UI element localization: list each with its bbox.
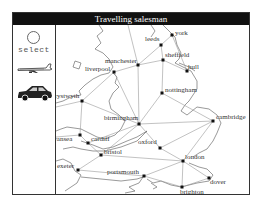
app-window: Travelling salesman select <box>12 12 250 195</box>
svg-text:exeter: exeter <box>57 162 75 170</box>
city-aberystwyth[interactable]: aberystwyth <box>56 92 84 103</box>
svg-text:manchester: manchester <box>105 57 138 65</box>
city-cardiff[interactable]: cardiff <box>87 135 111 145</box>
city-leeds[interactable]: leeds <box>145 35 163 47</box>
svg-text:nottingham: nottingham <box>165 86 197 94</box>
svg-text:sheffield: sheffield <box>165 51 190 59</box>
car-icon <box>16 81 54 103</box>
svg-text:cardiff: cardiff <box>91 135 110 143</box>
city-cambridge[interactable]: cambridge <box>212 113 246 123</box>
circle-select-icon <box>27 31 40 44</box>
city-liverpool[interactable]: liverpool <box>85 65 116 74</box>
svg-text:hull: hull <box>188 63 199 71</box>
window-title: Travelling salesman <box>13 13 249 25</box>
uk-map-canvas[interactable]: york leeds sheffield hull manchester liv… <box>56 25 250 195</box>
svg-text:brighton: brighton <box>180 188 204 195</box>
city-birmingham[interactable]: birmingham <box>104 114 141 126</box>
svg-text:liverpool: liverpool <box>85 65 110 73</box>
select-tool-button[interactable]: select <box>13 29 55 59</box>
airplane-tool-button[interactable] <box>16 61 54 77</box>
city-sheffield[interactable]: sheffield <box>162 51 190 62</box>
svg-text:leeds: leeds <box>145 35 160 43</box>
svg-text:dover: dover <box>210 178 227 186</box>
svg-text:bristol: bristol <box>104 148 122 156</box>
city-london[interactable]: london <box>182 153 205 163</box>
svg-text:oxford: oxford <box>138 138 157 146</box>
airplane-icon <box>16 61 54 77</box>
svg-text:cambridge: cambridge <box>216 113 246 121</box>
svg-text:york: york <box>175 29 188 37</box>
city-portsmouth[interactable]: portsmouth <box>107 168 146 178</box>
city-nottingham[interactable]: nottingham <box>161 86 198 95</box>
city-brighton[interactable]: brighton <box>180 186 204 196</box>
svg-text:swansea: swansea <box>56 135 73 143</box>
city-hull[interactable]: hull <box>186 63 199 73</box>
svg-text:portsmouth: portsmouth <box>107 168 139 176</box>
city-dover[interactable]: dover <box>208 177 227 187</box>
city-oxford[interactable]: oxford <box>138 138 162 150</box>
route-edges <box>56 25 213 187</box>
city-exeter[interactable]: exeter <box>57 162 80 172</box>
svg-text:london: london <box>185 153 205 161</box>
city-york[interactable]: york <box>171 29 189 37</box>
car-tool-button[interactable] <box>16 81 54 103</box>
svg-text:birmingham: birmingham <box>104 114 139 122</box>
tool-palette: select <box>13 25 56 195</box>
svg-text:aberystwyth: aberystwyth <box>56 92 80 100</box>
select-tool-label: select <box>13 45 55 54</box>
